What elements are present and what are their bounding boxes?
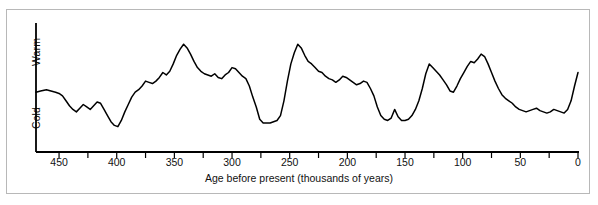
x-axis-tick-label: 400 [97, 156, 137, 168]
x-axis-tick-label: 150 [385, 156, 425, 168]
x-axis-title: Age before present (thousands of years) [0, 172, 598, 184]
x-axis-tick-label: 200 [327, 156, 367, 168]
x-axis-tick-label: 250 [270, 156, 310, 168]
x-axis-tick-label: 0 [558, 156, 598, 168]
climate-chart-figure: Warm Cold 450400350300250200150100500 Ag… [0, 0, 598, 205]
x-axis-tick-label: 100 [443, 156, 483, 168]
x-axis-tick-label: 350 [154, 156, 194, 168]
x-axis-tick-label: 50 [500, 156, 540, 168]
x-axis-tick-label: 300 [212, 156, 252, 168]
x-axis-tick-label: 450 [39, 156, 79, 168]
temperature-curve [36, 44, 578, 126]
